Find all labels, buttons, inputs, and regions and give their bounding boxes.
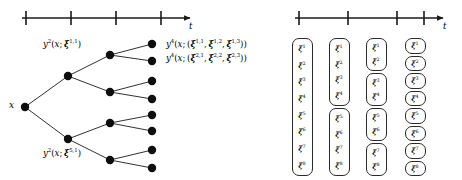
tree-edge bbox=[110, 55, 152, 61]
scenario-bundle-item: ξ7 bbox=[411, 147, 418, 154]
tree-edge bbox=[68, 55, 110, 76]
right-timeline-axis bbox=[295, 11, 443, 25]
scenario-bundle-item: ξ5 bbox=[298, 112, 305, 119]
scenario-bundle-item: ξ1 bbox=[298, 45, 305, 52]
scenario-bundle-box: ξ7 bbox=[405, 143, 426, 159]
scenario-bundle-box: ξ1ξ2ξ3ξ4 bbox=[329, 38, 350, 106]
tree-edge bbox=[110, 44, 152, 55]
scenario-bundle-item: ξ6 bbox=[298, 128, 305, 135]
scenario-bundle-item: ξ5 bbox=[335, 115, 342, 122]
tree-node-stage3 bbox=[106, 119, 114, 127]
scenario-bundle-item: ξ8 bbox=[298, 162, 305, 169]
tree-node-leaf bbox=[148, 77, 156, 85]
left-axis-label-t: t bbox=[189, 22, 192, 31]
tree-edge bbox=[110, 160, 152, 168]
tree-edge bbox=[68, 123, 110, 139]
tree-node-stage2 bbox=[64, 72, 72, 80]
scenario-bundle-item: ξ8 bbox=[411, 165, 418, 172]
scenario-bundle-box: ξ1 bbox=[405, 38, 426, 54]
tree-node-leaf bbox=[148, 40, 156, 48]
tree-node-stage3 bbox=[106, 51, 114, 59]
scenario-bundle-item: ξ4 bbox=[335, 92, 342, 99]
tree-node-leaf bbox=[148, 57, 156, 65]
figure-canvas: t t x y2(x; ξ1,1) y2(x; ξ5,1) y4(x; (ξ1,… bbox=[0, 0, 462, 180]
tree-edge bbox=[110, 92, 152, 99]
scenario-bundle-item: ξ2 bbox=[411, 60, 418, 67]
tree-node-stage3 bbox=[106, 88, 114, 96]
scenario-bundle-item: ξ5 bbox=[372, 114, 379, 121]
scenario-bundle-item: ξ3 bbox=[411, 77, 418, 84]
stage2-upper-label: y2(x; ξ1,1) bbox=[43, 40, 81, 49]
scenario-bundle-item: ξ8 bbox=[335, 162, 342, 169]
scenario-bundle-item: ξ8 bbox=[372, 163, 379, 170]
tree-edge bbox=[110, 150, 152, 160]
scenario-bundle-item: ξ7 bbox=[372, 149, 379, 156]
scenario-bundle-box: ξ2 bbox=[405, 56, 426, 72]
scenario-bundle-item: ξ2 bbox=[298, 62, 305, 69]
scenario-bundle-box: ξ4 bbox=[405, 91, 426, 107]
scenario-bundle-box: ξ8 bbox=[405, 161, 426, 177]
stage2-lower-label: y2(x; ξ5,1) bbox=[43, 149, 81, 158]
scenario-bundle-box: ξ6 bbox=[405, 126, 426, 142]
tree-edge bbox=[25, 76, 68, 107]
right-axis-label-t: t bbox=[443, 22, 446, 31]
scenario-tree-nodes bbox=[21, 40, 156, 172]
scenario-bundle-item: ξ4 bbox=[298, 95, 305, 102]
scenario-bundle-box: ξ5ξ6 bbox=[366, 108, 387, 141]
scenario-bundle-box: ξ1ξ2ξ3ξ4ξ5ξ6ξ7ξ8 bbox=[292, 38, 313, 176]
scenario-bundle-item: ξ1 bbox=[372, 44, 379, 51]
tree-edge bbox=[110, 115, 152, 123]
tree-edge bbox=[110, 123, 152, 131]
scenario-bundle-box: ξ3 bbox=[405, 73, 426, 89]
scenario-bundle-item: ξ4 bbox=[372, 93, 379, 100]
scenario-bundle-box: ξ5ξ6ξ7ξ8 bbox=[329, 108, 350, 176]
tree-node-root bbox=[21, 103, 29, 111]
tree-node-stage3 bbox=[106, 156, 114, 164]
scenario-bundle-item: ξ3 bbox=[372, 79, 379, 86]
tree-node-leaf bbox=[148, 164, 156, 172]
scenario-bundle-item: ξ1 bbox=[411, 42, 418, 49]
scenario-bundle-item: ξ6 bbox=[335, 131, 342, 138]
left-timeline-axis bbox=[22, 11, 190, 25]
tree-edge bbox=[110, 81, 152, 92]
scenario-bundle-item: ξ2 bbox=[372, 58, 379, 65]
leaf-upper-label: y4(x; (ξ1,1, ξ1,2, ξ1,3)) bbox=[166, 40, 247, 49]
tree-root-label: x bbox=[9, 101, 14, 110]
scenario-bundle-item: ξ3 bbox=[298, 78, 305, 85]
scenario-bundle-box: ξ3ξ4 bbox=[366, 73, 387, 106]
tree-node-leaf bbox=[148, 111, 156, 119]
tree-node-leaf bbox=[148, 127, 156, 135]
tree-node-leaf bbox=[148, 95, 156, 103]
scenario-bundle-item: ξ1 bbox=[335, 45, 342, 52]
tree-node-stage2 bbox=[64, 135, 72, 143]
scenario-bundle-item: ξ6 bbox=[372, 128, 379, 135]
scenario-bundle-item: ξ7 bbox=[335, 146, 342, 153]
scenario-bundle-box: ξ7ξ8 bbox=[366, 143, 387, 176]
scenario-bundle-item: ξ6 bbox=[411, 130, 418, 137]
tree-edge bbox=[25, 107, 68, 139]
scenario-bundle-item: ξ4 bbox=[411, 95, 418, 102]
scenario-bundle-box: ξ5 bbox=[405, 108, 426, 124]
tree-node-leaf bbox=[148, 146, 156, 154]
scenario-bundle-item: ξ2 bbox=[335, 61, 342, 68]
scenario-bundle-item: ξ5 bbox=[411, 112, 418, 119]
leaf-lower-label: y4(x; (ξ2,1, ξ2,2, ξ2,3)) bbox=[166, 54, 247, 63]
scenario-bundle-item: ξ7 bbox=[298, 145, 305, 152]
scenario-bundle-item: ξ3 bbox=[335, 76, 342, 83]
scenario-bundle-box: ξ1ξ2 bbox=[366, 38, 387, 71]
tree-edge bbox=[68, 76, 110, 92]
